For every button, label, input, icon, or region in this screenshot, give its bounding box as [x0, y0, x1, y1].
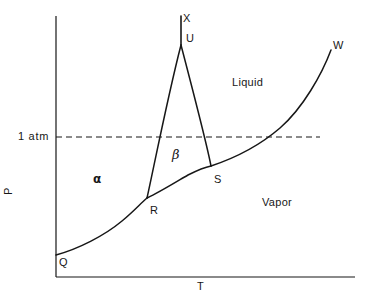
point-label-s: S [214, 174, 222, 185]
y-axis-title: P [3, 187, 14, 195]
curve-melting-s-u [181, 45, 211, 166]
point-label-q: Q [59, 257, 68, 268]
point-label-r: R [150, 205, 158, 216]
phase-diagram-figure: 1 atm P T α β Liquid Vapor Q R S U X W [0, 0, 372, 299]
x-axis-title: T [197, 281, 204, 292]
point-label-u: U [186, 33, 194, 44]
region-label-alpha: α [93, 174, 102, 185]
region-label-vapor: Vapor [262, 197, 292, 208]
point-label-w: W [333, 40, 344, 51]
curve-vaporization-s-w [211, 50, 331, 166]
region-label-liquid: Liquid [232, 77, 263, 88]
region-label-beta: β [172, 149, 180, 160]
one-atm-tick-label: 1 atm [18, 131, 49, 142]
curve-beta-vapor-r-s [147, 166, 211, 198]
curve-sublimation-q-r [56, 198, 147, 255]
curve-alpha-beta-r-u [147, 45, 181, 198]
phase-diagram-canvas [0, 0, 372, 299]
point-label-x: X [183, 13, 191, 24]
